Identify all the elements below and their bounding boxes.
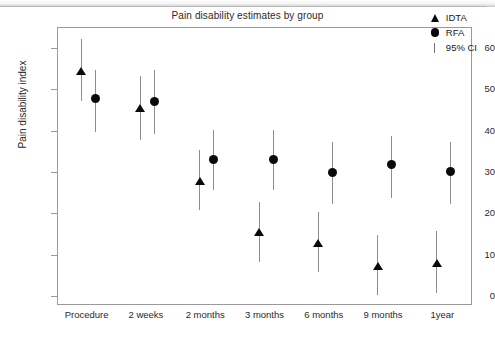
data-point-triangle	[432, 259, 442, 267]
legend-item-95-ci: 95% CI	[427, 40, 477, 55]
chart-figure: Pain disability estimates by group Pain …	[0, 0, 495, 338]
circle-icon	[427, 28, 443, 37]
triangle-icon	[427, 14, 443, 22]
data-point-triangle	[195, 177, 205, 185]
data-point-circle	[150, 97, 159, 106]
legend-item-rfa: RFA	[427, 25, 477, 40]
y-axis-title: Pain disability index	[17, 35, 28, 175]
x-tick-label: 1year	[399, 309, 485, 320]
data-point-circle	[209, 155, 218, 164]
data-point-circle	[269, 155, 278, 164]
legend-glyph-shape	[434, 43, 435, 53]
legend-item-idta: IDTA	[427, 10, 477, 25]
data-point-triangle	[254, 228, 264, 236]
data-point-circle	[387, 160, 396, 169]
data-point-circle	[328, 168, 337, 177]
legend-glyph-shape	[431, 28, 440, 37]
data-point-triangle	[76, 67, 86, 75]
data-point-circle	[91, 94, 100, 103]
chart-legend: IDTARFA95% CI	[427, 10, 477, 55]
chart-title: Pain disability estimates by group	[0, 10, 495, 21]
legend-label: RFA	[443, 27, 464, 38]
vertical-bar-icon	[427, 43, 443, 53]
legend-label: 95% CI	[443, 42, 477, 53]
data-point-circle	[446, 167, 455, 176]
data-point-triangle	[135, 104, 145, 112]
legend-label: IDTA	[443, 12, 467, 23]
plot-area	[57, 27, 472, 305]
data-point-triangle	[373, 262, 383, 270]
data-point-triangle	[313, 239, 323, 247]
legend-glyph-shape	[431, 14, 439, 22]
